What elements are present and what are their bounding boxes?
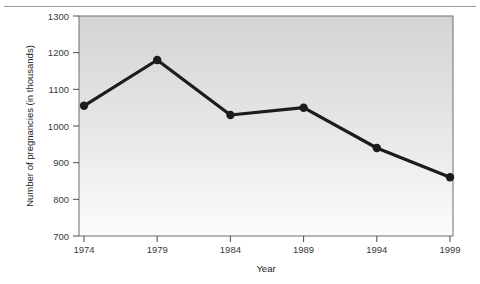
data-point-marker: [373, 144, 381, 152]
y-tick-label: 1100: [49, 84, 69, 95]
x-tick-label: 1979: [147, 244, 168, 255]
data-point-marker: [446, 173, 454, 181]
x-axis-ticks: [84, 236, 450, 242]
chart-figure: 1300 1200 1100 1000 900 800 700 1974 197…: [0, 0, 480, 284]
y-axis-title: Number of pregnancies (in thousands): [24, 45, 35, 207]
x-tick-label: 1974: [73, 244, 94, 255]
data-point-marker: [153, 56, 161, 64]
y-tick-label: 800: [53, 194, 69, 205]
data-point-marker: [226, 111, 234, 119]
x-tick-label: 1999: [439, 244, 460, 255]
x-axis-title: Year: [256, 263, 275, 274]
x-tick-label: 1994: [366, 244, 387, 255]
y-axis-ticks: [73, 16, 79, 236]
y-tick-label: 900: [53, 157, 69, 168]
data-point-marker: [80, 102, 88, 110]
y-tick-label: 1200: [48, 47, 69, 58]
y-tick-label: 1300: [48, 11, 69, 22]
plot-area-background: [79, 16, 453, 236]
data-point-marker: [299, 104, 307, 112]
x-tick-label: 1989: [293, 244, 314, 255]
pregnancies-line-chart: 1300 1200 1100 1000 900 800 700 1974 197…: [0, 0, 480, 284]
x-tick-label: 1984: [220, 244, 241, 255]
y-tick-label: 1000: [48, 121, 69, 132]
y-tick-label: 700: [53, 231, 69, 242]
